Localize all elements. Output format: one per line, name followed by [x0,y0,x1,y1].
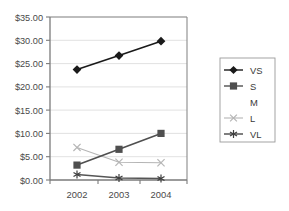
square-marker-icon [230,82,237,89]
y-tick-label: $35.00 [15,13,43,23]
chart-canvas: $35.00 $30.00 $25.00 $20.00 $15.00 $10.0… [0,0,289,211]
legend-label-vs: VS [250,65,263,76]
legend-label-l: L [250,113,255,124]
x-tick-label: 2002 [67,189,88,200]
legend-label-m: M [250,97,258,108]
y-tick-label: $20.00 [15,82,43,92]
y-tick-label: $15.00 [15,106,43,116]
y-tick-label: $10.00 [15,129,43,139]
y-tick-label: $30.00 [15,36,43,46]
legend-label-vl: VL [250,129,261,140]
y-tick-label: $5.00 [20,152,43,162]
x-tick-label: 2003 [109,189,130,200]
y-axis [46,17,50,180]
chart-legend: VS S M L [220,58,275,142]
plot-area-background [50,17,187,180]
y-axis-tick-labels: $35.00 $30.00 $25.00 $20.00 $15.00 $10.0… [15,13,43,186]
x-axis-tick-labels: 2002 2003 2004 [67,189,172,200]
line-chart: $35.00 $30.00 $25.00 $20.00 $15.00 $10.0… [0,0,289,211]
y-tick-label: $0.00 [20,176,43,186]
x-tick-label: 2004 [151,189,172,200]
y-tick-label: $25.00 [15,59,43,69]
legend-label-s: S [250,81,256,92]
